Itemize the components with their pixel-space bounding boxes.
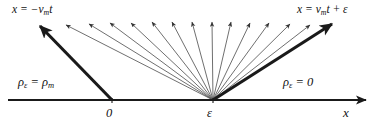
axis-tick-label-zero: 0	[106, 107, 112, 120]
density-right-rho-subscript: ε	[289, 80, 292, 90]
density-right-label: ρε = 0	[283, 76, 313, 90]
fan-ray-5	[172, 22, 213, 100]
fan-ray-0	[66, 25, 213, 100]
right-eq-epsilon: ε	[343, 3, 348, 15]
right-eq-time: t	[326, 3, 329, 15]
fan-ray-7	[212, 22, 213, 100]
density-left-rho2-subscript: m	[48, 80, 54, 90]
right-eq-plus: +	[332, 3, 340, 15]
diagram-canvas	[0, 0, 379, 131]
left-eq-time: t	[49, 3, 52, 15]
fan-ray-11	[213, 24, 290, 100]
left-boundary-equation-label: x = −vmt	[12, 4, 52, 17]
fan-ray-6	[192, 22, 213, 100]
axis-tick-label-epsilon: ε	[207, 107, 212, 120]
x-axis-label: x	[343, 106, 349, 119]
right-boundary-equation-label: x = vmt + ε	[297, 4, 348, 17]
density-left-label: ρε = ρm	[18, 76, 54, 90]
right-eq-lhs: x	[297, 3, 302, 15]
density-right-value: 0	[307, 75, 313, 89]
fan-ray-1	[89, 24, 213, 100]
density-right-operator: =	[295, 75, 303, 89]
fan-ray-10	[213, 23, 269, 100]
left-eq-operator: =	[20, 3, 28, 15]
right-eq-operator: =	[305, 3, 313, 15]
density-left-rho-subscript: ε	[24, 80, 27, 90]
density-left-operator: =	[30, 75, 38, 89]
fan-ray-3	[131, 23, 213, 100]
characteristics-diagram: x = −vmt x = vmt + ε ρε = ρm ρε = 0 0 ε …	[0, 0, 379, 131]
left-eq-lhs: x	[12, 3, 17, 15]
